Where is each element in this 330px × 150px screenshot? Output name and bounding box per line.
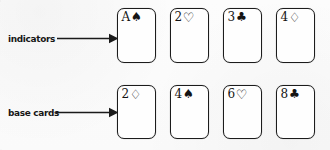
- card-rank: 3: [228, 11, 236, 23]
- card-row-indicators: A ♠ 2 ♡ 3 ♣ 4 ♢: [117, 8, 315, 63]
- card[interactable]: 3 ♣: [223, 8, 262, 63]
- card[interactable]: 2 ♡: [170, 8, 209, 63]
- card-corner: 8 ♣: [281, 88, 300, 101]
- card[interactable]: 4 ♢: [276, 8, 315, 63]
- leader-arrow-indicators: [57, 33, 119, 44]
- club-icon: ♣: [289, 88, 300, 101]
- annotation-label-indicators: indicators: [8, 33, 55, 44]
- heart-icon: ♡: [183, 11, 195, 24]
- annotation-label-base-cards: base cards: [8, 107, 59, 118]
- card-corner: 6 ♡: [228, 88, 248, 101]
- diamond-icon: ♢: [289, 11, 301, 24]
- card-rank: A: [122, 11, 131, 23]
- spade-icon: ♠: [183, 88, 194, 101]
- card-corner: 2 ♢: [122, 88, 142, 101]
- card-corner: 4 ♢: [281, 11, 301, 24]
- card[interactable]: 8 ♣: [276, 85, 315, 139]
- card-row-base-cards: 2 ♢ 4 ♠ 6 ♡ 8 ♣: [117, 85, 315, 139]
- card-rank: 4: [175, 88, 183, 100]
- card-corner: 4 ♠: [175, 88, 194, 101]
- card-rank: 2: [175, 11, 183, 23]
- card-corner: 2 ♡: [175, 11, 195, 24]
- card[interactable]: 6 ♡: [223, 85, 262, 139]
- card-rank: 4: [281, 11, 289, 23]
- leader-arrow-base-cards: [56, 107, 119, 118]
- card-layout-diagram: indicators base cards A ♠ 2 ♡: [0, 0, 330, 150]
- card-corner: 3 ♣: [228, 11, 247, 24]
- spade-icon: ♠: [131, 11, 142, 24]
- card-rank: 2: [122, 88, 130, 100]
- card-rank: 8: [281, 88, 289, 100]
- card[interactable]: 4 ♠: [170, 85, 209, 139]
- card[interactable]: 2 ♢: [117, 85, 156, 139]
- card-rank: 6: [228, 88, 236, 100]
- card[interactable]: A ♠: [117, 8, 156, 63]
- diamond-icon: ♢: [130, 88, 142, 101]
- club-icon: ♣: [236, 11, 247, 24]
- card-corner: A ♠: [122, 11, 142, 24]
- heart-icon: ♡: [236, 88, 248, 101]
